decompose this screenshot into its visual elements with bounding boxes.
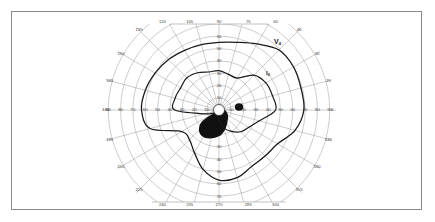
- svg-text:40: 40: [217, 58, 222, 63]
- svg-text:50: 50: [278, 107, 283, 112]
- svg-text:255: 255: [186, 202, 194, 207]
- svg-text:10: 10: [217, 95, 222, 100]
- svg-text:30: 30: [217, 144, 222, 149]
- svg-text:30: 30: [315, 51, 320, 56]
- svg-text:150: 150: [118, 51, 126, 56]
- svg-text:50: 50: [155, 107, 160, 112]
- svg-text:330: 330: [313, 164, 321, 169]
- svg-text:195: 195: [106, 137, 114, 142]
- svg-text:20: 20: [192, 107, 197, 112]
- visual-field-chart: 9080706050403020101020304050607080901020…: [0, 0, 435, 222]
- svg-text:60: 60: [217, 181, 222, 186]
- svg-text:315: 315: [296, 187, 304, 192]
- svg-text:40: 40: [167, 107, 172, 112]
- svg-text:60: 60: [217, 34, 222, 39]
- svg-text:70: 70: [131, 107, 136, 112]
- svg-text:40: 40: [217, 157, 222, 162]
- svg-text:225: 225: [135, 187, 143, 192]
- svg-text:10: 10: [204, 107, 209, 112]
- svg-text:300: 300: [272, 202, 280, 207]
- svg-text:V4: V4: [274, 38, 282, 46]
- svg-text:180: 180: [102, 107, 110, 112]
- svg-text:60: 60: [273, 19, 278, 24]
- svg-text:135: 135: [135, 27, 143, 32]
- svg-text:90: 90: [217, 19, 222, 24]
- svg-text:50: 50: [217, 46, 222, 51]
- svg-text:10: 10: [229, 107, 234, 112]
- svg-text:285: 285: [245, 202, 253, 207]
- svg-text:30: 30: [254, 107, 259, 112]
- blind-spot: [235, 103, 243, 111]
- svg-text:165: 165: [106, 78, 114, 83]
- svg-text:80: 80: [315, 107, 320, 112]
- isopter-label-i4: I4: [266, 70, 270, 77]
- svg-text:120: 120: [159, 19, 167, 24]
- svg-text:15: 15: [326, 78, 331, 83]
- svg-text:240: 240: [159, 202, 167, 207]
- svg-text:45: 45: [297, 27, 302, 32]
- isopter-label-v4: V4: [274, 38, 282, 46]
- svg-text:345: 345: [325, 137, 333, 142]
- svg-text:50: 50: [217, 169, 222, 174]
- svg-text:60: 60: [290, 107, 295, 112]
- svg-text:80: 80: [118, 107, 123, 112]
- svg-text:60: 60: [143, 107, 148, 112]
- svg-text:270: 270: [216, 202, 224, 207]
- svg-text:75: 75: [246, 19, 251, 24]
- svg-text:70: 70: [217, 194, 222, 199]
- svg-text:105: 105: [186, 19, 194, 24]
- svg-text:210: 210: [118, 164, 126, 169]
- svg-text:20: 20: [217, 83, 222, 88]
- svg-text:I4: I4: [266, 70, 270, 77]
- svg-text:40: 40: [266, 107, 271, 112]
